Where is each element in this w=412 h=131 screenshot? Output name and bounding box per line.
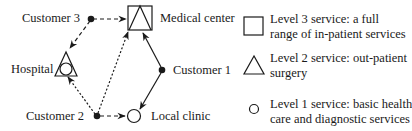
edge-customer1-local-clinic bbox=[140, 73, 161, 109]
customer2-label: Customer 2 bbox=[26, 109, 84, 123]
hospital-label: Hospital bbox=[11, 62, 53, 76]
local-clinic-icon bbox=[128, 110, 141, 123]
legend-level1-line2: care and diagnostic services bbox=[270, 112, 412, 127]
medical-center-label: Medical center bbox=[160, 11, 235, 25]
legend-circle-icon bbox=[250, 105, 259, 114]
customer1-label: Customer 1 bbox=[173, 63, 231, 77]
legend-level3-text: Level 3 service: a full range of in-pati… bbox=[270, 12, 406, 41]
legend-level3-line2: range of in-patient services bbox=[270, 27, 406, 42]
edge-customer2-medical-center bbox=[98, 32, 128, 113]
legend-level2-line2: surgery bbox=[270, 66, 407, 81]
edge-customer1-medical-center bbox=[143, 33, 161, 67]
customer2-dot bbox=[94, 113, 101, 120]
medical-center-icon bbox=[128, 6, 152, 30]
customer1-dot bbox=[159, 67, 166, 74]
edge-customer3-hospital bbox=[70, 21, 90, 48]
legend-level3-line1: Level 3 service: a full bbox=[270, 12, 406, 27]
legend-level2-line1: Level 2 service: out-patient bbox=[270, 51, 407, 66]
customer3-dot bbox=[88, 16, 95, 23]
customer3-label: Customer 3 bbox=[22, 11, 80, 25]
legend-triangle-icon bbox=[244, 56, 264, 74]
legend-level1-line1: Level 1 service: basic health bbox=[270, 97, 412, 112]
legend-square-icon bbox=[244, 17, 263, 35]
hospital-icon bbox=[55, 52, 77, 76]
legend-level2-text: Level 2 service: out-patient surgery bbox=[270, 51, 407, 80]
legend-level1-text: Level 1 service: basic health care and d… bbox=[270, 97, 412, 126]
local-clinic-label: Local clinic bbox=[151, 109, 210, 123]
